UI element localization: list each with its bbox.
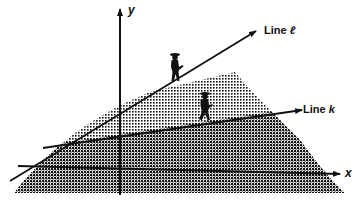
coordinate-diagram: y x Line ℓ Line k (0, 0, 361, 208)
line-l-label: Line ℓ (264, 24, 295, 36)
line-l-label-var: ℓ (290, 24, 296, 36)
line-k-label: Line k (303, 103, 335, 115)
line-k-label-prefix: Line (303, 103, 329, 115)
line-k-label-var: k (329, 103, 335, 115)
x-axis-label: x (345, 166, 352, 180)
line-l-label-prefix: Line (264, 24, 290, 36)
y-axis-label: y (128, 3, 135, 17)
